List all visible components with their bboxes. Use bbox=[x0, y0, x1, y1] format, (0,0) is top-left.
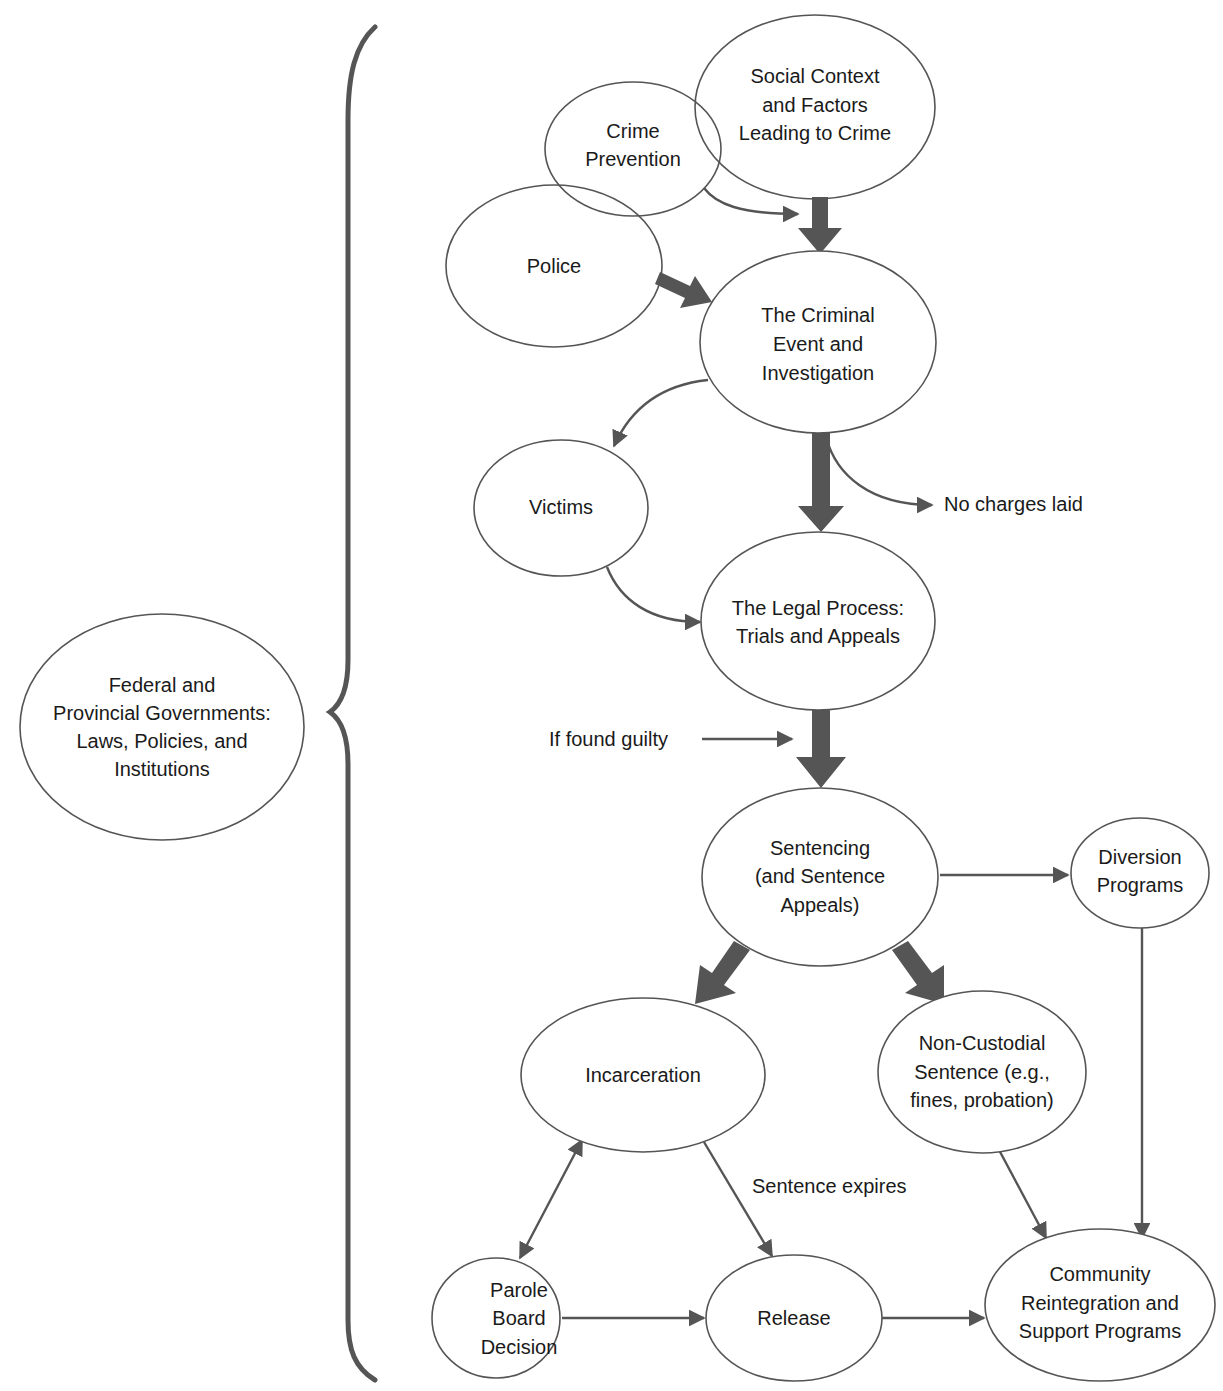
node-label: The Criminal bbox=[761, 304, 874, 326]
arrow-victims-legal bbox=[607, 567, 700, 622]
node-label: Non-Custodial bbox=[919, 1032, 1046, 1054]
node-label: Victims bbox=[529, 496, 593, 518]
arrow-sentencing-incarceration bbox=[695, 941, 750, 1004]
arrow-criminal-nocharges bbox=[826, 437, 932, 505]
arrow-criminal-legal bbox=[798, 430, 844, 532]
arrow-incarceration-release bbox=[704, 1142, 772, 1256]
label-no-charges-laid: No charges laid bbox=[944, 493, 1083, 515]
node-label: Investigation bbox=[762, 362, 874, 384]
node-governments: Federal and Provincial Governments: Laws… bbox=[20, 614, 304, 840]
node-label: Sentence (e.g., bbox=[914, 1061, 1050, 1083]
node-label: Appeals) bbox=[781, 894, 860, 916]
node-label: Institutions bbox=[114, 758, 210, 780]
node-diversion-programs: Diversion Programs bbox=[1071, 818, 1209, 928]
node-incarceration: Incarceration bbox=[521, 998, 765, 1152]
node-label: Provincial Governments: bbox=[53, 702, 271, 724]
node-label: Release bbox=[757, 1307, 830, 1329]
node-label: Reintegration and bbox=[1021, 1292, 1179, 1314]
node-label: Parole bbox=[490, 1279, 548, 1301]
node-parole-board: Parole Board Decision bbox=[432, 1258, 560, 1378]
node-label: Trials and Appeals bbox=[736, 625, 900, 647]
node-social-context: Social Context and Factors Leading to Cr… bbox=[695, 15, 935, 199]
node-label: Prevention bbox=[585, 148, 681, 170]
node-label: Support Programs bbox=[1019, 1320, 1181, 1342]
node-label: and Factors bbox=[762, 94, 868, 116]
node-criminal-event: The Criminal Event and Investigation bbox=[700, 251, 936, 433]
arrow-prevention-criminal bbox=[704, 188, 798, 214]
arrow-police-criminal bbox=[655, 272, 712, 308]
arrow-legal-sentencing bbox=[796, 708, 846, 788]
node-label: Event and bbox=[773, 333, 863, 355]
node-label: Police bbox=[527, 255, 581, 277]
node-police: Police bbox=[446, 185, 662, 347]
curly-bracket bbox=[330, 27, 375, 1380]
arrow-noncustodial-community bbox=[998, 1148, 1046, 1238]
node-label: The Legal Process: bbox=[732, 597, 904, 619]
node-label: Sentencing bbox=[770, 837, 870, 859]
node-label: Leading to Crime bbox=[739, 122, 891, 144]
node-label: Programs bbox=[1097, 874, 1184, 896]
node-label: (and Sentence bbox=[755, 865, 885, 887]
node-label: Decision bbox=[481, 1336, 558, 1358]
node-label: Community bbox=[1049, 1263, 1150, 1285]
node-crime-prevention: Crime Prevention bbox=[545, 82, 721, 216]
justice-system-diagram: Federal and Provincial Governments: Laws… bbox=[0, 0, 1223, 1391]
arrow-criminal-victims bbox=[614, 380, 708, 446]
label-sentence-expires: Sentence expires bbox=[752, 1175, 907, 1197]
node-label: Incarceration bbox=[585, 1064, 701, 1086]
node-label: Federal and bbox=[109, 674, 216, 696]
node-label: Crime bbox=[606, 120, 659, 142]
node-community-reintegration: Community Reintegration and Support Prog… bbox=[985, 1229, 1215, 1381]
node-label: Laws, Policies, and bbox=[76, 730, 247, 752]
node-label: Diversion bbox=[1098, 846, 1181, 868]
node-non-custodial-sentence: Non-Custodial Sentence (e.g., fines, pro… bbox=[878, 991, 1086, 1153]
node-release: Release bbox=[706, 1255, 882, 1381]
arrow-social-criminal bbox=[798, 197, 842, 254]
node-label: Board bbox=[492, 1307, 545, 1329]
node-sentencing: Sentencing (and Sentence Appeals) bbox=[702, 788, 938, 966]
node-label: fines, probation) bbox=[910, 1089, 1053, 1111]
arrow-incarceration-parole bbox=[520, 1140, 582, 1258]
node-label: Social Context bbox=[751, 65, 880, 87]
label-if-found-guilty: If found guilty bbox=[549, 728, 668, 750]
arrow-sentencing-noncustodial bbox=[892, 941, 944, 1004]
node-victims: Victims bbox=[474, 440, 648, 576]
node-legal-process: The Legal Process: Trials and Appeals bbox=[701, 532, 935, 710]
